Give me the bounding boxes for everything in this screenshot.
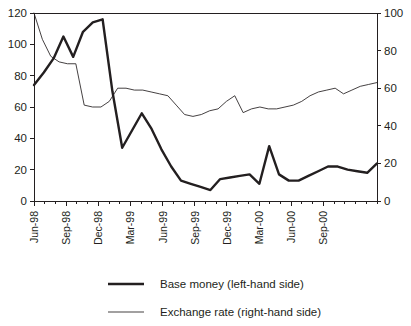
x-tick-label: Sep-99 — [189, 211, 201, 245]
x-tick-label: Sep-00 — [317, 211, 329, 245]
x-tick-label: Sep-98 — [60, 211, 72, 245]
y-left-tick-label: 80 — [14, 70, 27, 82]
x-tick-label: Mar-99 — [124, 211, 136, 244]
y-right-tick-label: 80 — [384, 45, 397, 57]
legend-label-2: Exchange rate (right-hand side) — [160, 306, 321, 318]
y-right-tick-label: 40 — [384, 120, 397, 132]
chart-legend: Base money (left-hand side)Exchange rate… — [108, 278, 321, 318]
x-tick-label: Dec-99 — [221, 211, 233, 245]
plot-frame — [34, 13, 377, 201]
y-right-tick-label: 0 — [384, 195, 390, 207]
y-axis-right: 020406080100 — [377, 7, 403, 207]
y-axis-left: 020406080100120 — [8, 7, 34, 207]
plot-area-border — [34, 13, 377, 201]
x-tick-label: Jun-99 — [157, 211, 169, 243]
y-left-tick-label: 100 — [8, 38, 27, 50]
y-right-tick-label: 60 — [384, 82, 397, 94]
y-left-tick-label: 0 — [21, 195, 27, 207]
y-right-tick-label: 100 — [384, 7, 403, 19]
y-left-tick-label: 60 — [14, 101, 27, 113]
x-tick-label: Mar-00 — [253, 211, 265, 244]
dual-axis-line-chart: 020406080100120 020406080100 Jun-98Sep-9… — [0, 0, 411, 326]
chart-container: 020406080100120 020406080100 Jun-98Sep-9… — [0, 0, 411, 326]
x-tick-label: Jun-98 — [28, 211, 40, 243]
legend-label-1: Base money (left-hand side) — [160, 278, 304, 290]
y-left-tick-label: 40 — [14, 132, 27, 144]
y-left-tick-label: 20 — [14, 164, 27, 176]
x-axis: Jun-98Sep-98Dec-98Mar-99Jun-99Sep-99Dec-… — [28, 201, 377, 245]
x-tick-label: Dec-98 — [92, 211, 104, 245]
x-tick-label: Jun-00 — [285, 211, 297, 243]
y-left-tick-label: 120 — [8, 7, 27, 19]
y-right-tick-label: 20 — [384, 157, 397, 169]
